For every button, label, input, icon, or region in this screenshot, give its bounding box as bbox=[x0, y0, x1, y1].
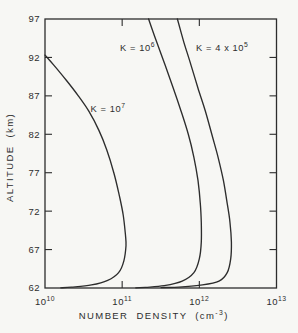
y-tick-label: 82 bbox=[28, 129, 40, 140]
curve-label-1: K = 106 bbox=[120, 41, 155, 53]
curve-label-0: K = 107 bbox=[91, 102, 126, 114]
y-tick-label: 67 bbox=[28, 244, 40, 255]
x-tick-label: 1013 bbox=[266, 295, 286, 307]
y-axis-title: ALTITUDE (km) bbox=[4, 113, 15, 202]
chart-canvas: 97928782777267621010101110121013NUMBER D… bbox=[0, 0, 298, 333]
y-tick-label: 77 bbox=[28, 167, 40, 178]
curve-label-2: K = 4 x 105 bbox=[196, 41, 249, 53]
x-tick-label: 1012 bbox=[189, 295, 209, 307]
plot-frame bbox=[45, 19, 277, 288]
y-tick-label: 72 bbox=[28, 206, 40, 217]
y-tick-label: 62 bbox=[28, 282, 40, 293]
y-tick-label: 92 bbox=[28, 52, 40, 63]
y-tick-label: 87 bbox=[28, 90, 40, 101]
chart-figure: 97928782777267621010101110121013NUMBER D… bbox=[0, 0, 298, 333]
curve-1 bbox=[136, 19, 202, 288]
y-tick-label: 97 bbox=[28, 13, 40, 24]
x-tick-label: 1011 bbox=[112, 295, 132, 307]
curve-0 bbox=[45, 55, 126, 288]
curve-2 bbox=[161, 19, 231, 288]
x-tick-label: 1010 bbox=[35, 295, 55, 307]
x-axis-title: NUMBER DENSITY (cm-3) bbox=[79, 309, 229, 321]
